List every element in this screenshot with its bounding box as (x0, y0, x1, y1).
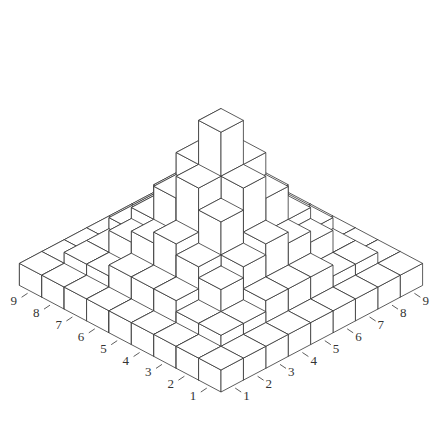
axis-tick (66, 317, 72, 321)
right-axis-label: 9 (422, 293, 429, 308)
right-axis-label: 4 (310, 353, 317, 368)
axis-tick (325, 341, 331, 345)
axis-tick (258, 376, 264, 380)
chart-canvas: 123456789123456789 (0, 0, 443, 424)
axis-tick (111, 341, 117, 345)
right-axis-label: 5 (333, 341, 340, 356)
axis-tick (156, 364, 162, 368)
axis-tick (370, 317, 376, 321)
isometric-3d-bar-chart: 123456789123456789 (0, 0, 443, 424)
right-axis-label: 3 (288, 364, 295, 379)
axis-tick (347, 329, 353, 333)
axis-tick (414, 293, 420, 297)
axis-tick (302, 353, 308, 357)
left-axis-label: 7 (55, 317, 62, 332)
axis-tick (22, 293, 28, 297)
axis-tick (280, 364, 286, 368)
axis-tick (392, 305, 398, 309)
right-axis-label: 1 (243, 388, 250, 403)
left-axis-label: 6 (78, 329, 85, 344)
left-axis-label: 9 (11, 293, 18, 308)
right-axis-label: 2 (266, 376, 273, 391)
axis-tick (44, 305, 50, 309)
axis-tick (235, 388, 241, 392)
left-axis-label: 5 (100, 341, 107, 356)
axis-tick (178, 376, 184, 380)
left-axis-label: 2 (167, 376, 174, 391)
left-axis-label: 4 (123, 353, 130, 368)
right-axis-label: 6 (355, 329, 362, 344)
right-axis-label: 7 (378, 317, 385, 332)
right-axis-label: 8 (400, 305, 407, 320)
axis-tick (134, 353, 140, 357)
axis-tick (201, 388, 207, 392)
left-axis-label: 1 (190, 388, 197, 403)
left-axis-label: 8 (33, 305, 40, 320)
left-axis-label: 3 (145, 364, 152, 379)
axis-tick (89, 329, 95, 333)
